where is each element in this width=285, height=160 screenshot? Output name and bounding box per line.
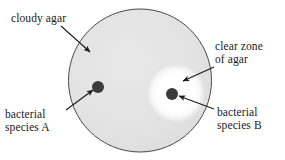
agar-plate-diagram: cloudy agar clear zone of agar bacterial… — [0, 0, 285, 160]
species-a-label-line2: species A — [5, 121, 50, 134]
clear-zone-of-agar-label: clear zone of agar — [215, 40, 263, 65]
cloudy-agar-label: cloudy agar — [11, 12, 66, 25]
bacterial-colony-b-dot — [166, 88, 178, 100]
bacterial-species-a-label: bacterial species A — [5, 108, 50, 133]
bacterial-colony-a-dot — [92, 81, 104, 93]
species-b-label-line2: species B — [217, 119, 262, 132]
clear-zone-label-line1: clear zone — [215, 40, 263, 53]
species-b-label-line1: bacterial — [217, 106, 262, 119]
cloudy-agar-label-line1: cloudy agar — [11, 12, 66, 25]
bacterial-species-b-label: bacterial species B — [217, 106, 262, 131]
clear-zone-label-line2: of agar — [215, 53, 263, 66]
species-a-label-line1: bacterial — [5, 108, 50, 121]
